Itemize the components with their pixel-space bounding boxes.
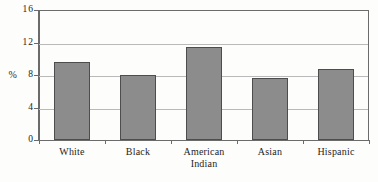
- y-tick-label-4: 4: [16, 103, 34, 113]
- bar-black: [120, 75, 157, 140]
- x-tick-mark-1: [105, 140, 106, 144]
- bar-asian: [252, 78, 289, 140]
- plot-area: [39, 10, 369, 140]
- y-tick-label-8: 8: [16, 70, 34, 80]
- x-label-asian: Asian: [237, 146, 303, 158]
- x-tick-mark-3: [237, 140, 238, 144]
- x-tick-mark-0: [39, 140, 40, 144]
- bar-hispanic: [318, 69, 355, 140]
- bar-american-indian: [186, 47, 223, 140]
- y-tick-label-12: 12: [16, 38, 34, 48]
- x-label-hispanic: Hispanic: [303, 146, 369, 158]
- x-tick-mark-5: [369, 140, 370, 144]
- x-tick-mark-2: [171, 140, 172, 144]
- x-label-american-indian-line2: Indian: [171, 158, 237, 170]
- x-label-american-indian-line1: American: [171, 146, 237, 158]
- x-label-hispanic-line1: Hispanic: [303, 146, 369, 158]
- y-axis-tick-labels: 16 12 8 4 0: [14, 0, 34, 182]
- bar-chart: % 16 12 8 4 0 White Black: [0, 0, 378, 182]
- x-label-white-line1: White: [39, 146, 105, 158]
- x-label-asian-line1: Asian: [237, 146, 303, 158]
- x-label-black-line1: Black: [105, 146, 171, 158]
- x-label-black: Black: [105, 146, 171, 158]
- x-label-white: White: [39, 146, 105, 158]
- y-tick-label-16: 16: [16, 5, 34, 15]
- y-tick-label-0: 0: [16, 135, 34, 145]
- bar-white: [54, 62, 91, 140]
- bars-layer: [39, 11, 368, 140]
- x-tick-mark-4: [303, 140, 304, 144]
- x-label-american-indian: American Indian: [171, 146, 237, 169]
